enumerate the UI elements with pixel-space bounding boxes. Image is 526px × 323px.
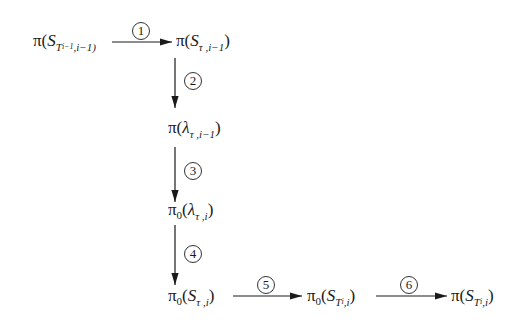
var: λ: [182, 118, 189, 137]
var: S: [47, 31, 56, 50]
paren: ): [488, 286, 494, 305]
idx: ,i−1): [74, 41, 96, 53]
pi-symbol: π: [168, 286, 177, 305]
step-label-6: 6: [400, 276, 418, 294]
idx: ,i: [482, 296, 488, 308]
step-label-5: 5: [257, 276, 275, 294]
pi-symbol: π: [451, 286, 460, 305]
pi-symbol: π: [168, 118, 177, 137]
sub: T: [56, 41, 62, 53]
sub: τ ,i−1: [199, 41, 224, 53]
sub: T: [474, 296, 480, 308]
node-pi0-S-Ti-i: π0(STi,i): [307, 286, 355, 309]
step-label-1: 1: [132, 22, 150, 40]
node-pi-S-Ti-i: π(STi,i): [451, 286, 494, 309]
pi-symbol: π: [168, 200, 177, 219]
pi-symbol: π: [307, 286, 316, 305]
sub: τ ,i: [195, 210, 208, 222]
var: S: [327, 286, 336, 305]
node-pi0-S-tau-i: π0(Sτ ,i): [168, 286, 214, 307]
step-label-4: 4: [184, 245, 202, 263]
paren: ): [215, 118, 221, 137]
var: S: [465, 286, 474, 305]
paren: ): [349, 286, 355, 305]
pi-symbol: π: [33, 31, 42, 50]
step-label-3: 3: [184, 162, 202, 180]
sub: τ ,i−1: [190, 128, 215, 140]
idx: ,i: [344, 296, 350, 308]
var: S: [188, 286, 197, 305]
node-pi-S-T-i-1: π(STi−1,i−1): [33, 31, 96, 54]
node-pi-S-tau-i-1: π(Sτ ,i−1): [176, 31, 230, 52]
node-pi0-lambda-tau-i: π0(λτ ,i): [168, 200, 213, 221]
paren: ): [209, 286, 215, 305]
step-label-2: 2: [184, 72, 202, 90]
paren: ): [208, 200, 214, 219]
zero: 0: [316, 295, 322, 307]
sub: τ ,i: [196, 296, 209, 308]
zero: 0: [177, 209, 183, 221]
zero: 0: [177, 295, 183, 307]
subsub: i−1: [62, 42, 74, 51]
node-pi-lambda-tau-i-1: π(λτ ,i−1): [168, 118, 221, 139]
var: S: [190, 31, 199, 50]
pi-symbol: π: [176, 31, 185, 50]
paren: ): [224, 31, 230, 50]
